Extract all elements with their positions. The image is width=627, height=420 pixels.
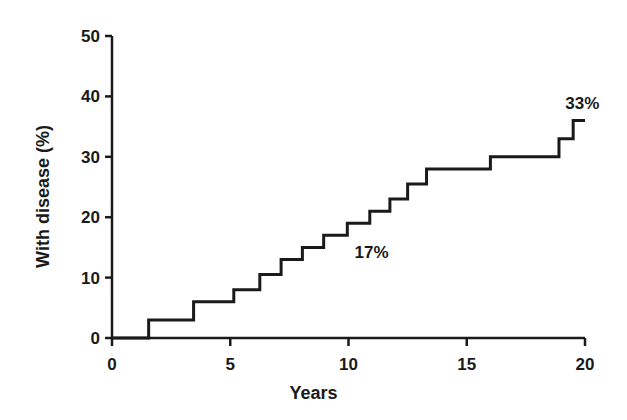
x-tick-label: 10 bbox=[339, 356, 358, 373]
chart-line-series-0 bbox=[112, 121, 585, 338]
x-tick-label: 0 bbox=[107, 356, 116, 373]
chart-annotation-33pct: 33% bbox=[565, 94, 599, 114]
chart-axes bbox=[105, 36, 585, 346]
x-tick-label: 20 bbox=[576, 356, 595, 373]
x-tick-label: 15 bbox=[457, 356, 476, 373]
chart-series-group bbox=[112, 121, 585, 338]
chart-annotation-17pct: 17% bbox=[355, 243, 389, 263]
y-axis-title: With disease (%) bbox=[33, 57, 54, 337]
y-tick-label: 50 bbox=[32, 28, 100, 45]
x-axis-title: Years bbox=[0, 383, 627, 404]
chart-figure: 01020304050 05101520 17%33% With disease… bbox=[0, 0, 627, 420]
x-tick-label: 5 bbox=[226, 356, 235, 373]
